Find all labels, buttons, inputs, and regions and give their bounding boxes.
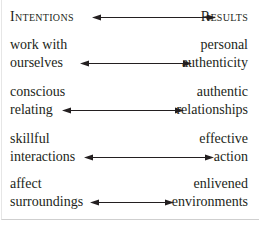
- header-results: Results: [201, 8, 248, 25]
- header-row: Intentions Results: [10, 8, 248, 26]
- double-arrow-icon: [62, 106, 184, 115]
- intention-line2: relating: [10, 101, 53, 118]
- result-line1: enlivened: [194, 175, 248, 192]
- intention-line1: conscious: [10, 83, 65, 100]
- intention-line2: ourselves: [10, 54, 63, 71]
- result-line2: action: [214, 148, 248, 165]
- intention-line2: surroundings: [10, 193, 83, 210]
- double-arrow-icon: [92, 13, 216, 22]
- result-line2: relationships: [176, 101, 248, 118]
- header-intentions: Intentions: [10, 8, 74, 25]
- result-line2: authenticity: [182, 54, 248, 71]
- intention-line1: work with: [10, 36, 67, 53]
- pair-row-3: skillful effective interactions action: [10, 130, 248, 166]
- double-arrow-icon: [90, 198, 174, 207]
- result-line1: authentic: [197, 83, 248, 100]
- intention-line2: interactions: [10, 148, 75, 165]
- pair-row-1: work with personal ourselves authenticit…: [10, 36, 248, 72]
- intention-line1: skillful: [10, 130, 50, 147]
- result-line2: environments: [172, 193, 248, 210]
- intention-line1: affect: [10, 175, 42, 192]
- pair-row-2: conscious authentic relating relationshi…: [10, 83, 248, 119]
- result-line1: personal: [201, 36, 248, 53]
- result-line1: effective: [199, 130, 248, 147]
- double-arrow-icon: [84, 153, 214, 162]
- pair-row-4: affect enlivened surroundings environmen…: [10, 175, 248, 211]
- double-arrow-icon: [80, 59, 192, 68]
